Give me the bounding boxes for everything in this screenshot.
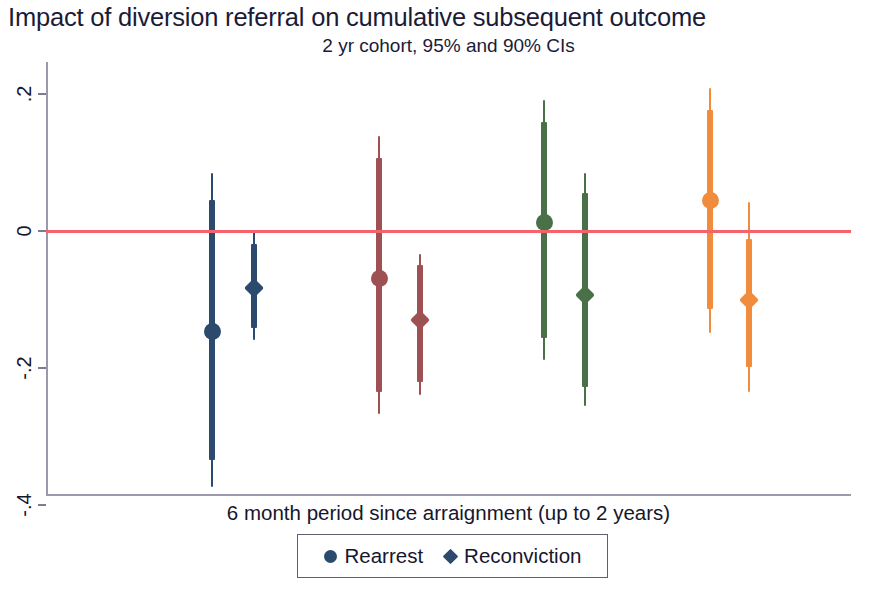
y-axis-tick-label: 0 bbox=[14, 201, 34, 261]
point-marker-diamond bbox=[244, 278, 264, 298]
legend-circle-icon bbox=[324, 550, 337, 563]
point-marker-diamond bbox=[410, 310, 430, 330]
legend-diamond-icon bbox=[443, 548, 459, 564]
legend-entry-label: Rearrest bbox=[345, 545, 424, 567]
y-axis-tick-label: -.2 bbox=[14, 338, 34, 398]
point-marker-diamond bbox=[575, 285, 595, 305]
y-axis-tick bbox=[38, 367, 46, 369]
x-axis-label: 6 month period since arraignment (up to … bbox=[46, 500, 851, 526]
y-axis-tick bbox=[38, 504, 46, 506]
y-axis-tick-label: .2 bbox=[14, 64, 34, 124]
legend-entry-label: Reconviction bbox=[464, 545, 581, 567]
point-marker-diamond bbox=[739, 290, 759, 310]
y-axis-tick-label: -.4 bbox=[14, 475, 34, 535]
point-marker-circle bbox=[204, 323, 221, 340]
point-marker-circle bbox=[536, 214, 553, 231]
chart-legend: RearrestReconviction bbox=[297, 534, 608, 578]
y-axis-tick bbox=[38, 93, 46, 95]
point-marker-circle bbox=[702, 192, 719, 209]
confidence-interval-90 bbox=[707, 110, 713, 309]
zero-reference-line bbox=[46, 230, 851, 233]
plot-area bbox=[46, 62, 851, 496]
point-marker-circle bbox=[371, 270, 388, 287]
y-axis-tick bbox=[38, 230, 46, 232]
legend-entry[interactable]: Rearrest bbox=[324, 545, 424, 567]
legend-entry[interactable]: Reconviction bbox=[445, 545, 581, 567]
chart-figure: Impact of diversion referral on cumulati… bbox=[0, 0, 894, 596]
plot-inner bbox=[48, 62, 851, 494]
